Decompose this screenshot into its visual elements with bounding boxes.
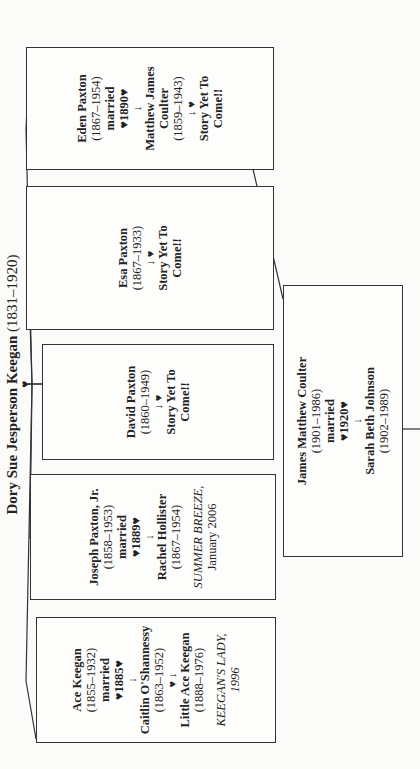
marriage-year: ♥1920♥ [337, 401, 351, 441]
root-name: Dory Sue Jesperson Keegan [4, 336, 20, 515]
root-dates: (1831–1920) [4, 255, 20, 333]
married-label: married [323, 399, 337, 443]
story-status: Story Yet To Come!! [164, 362, 192, 442]
book-title: KEEGAN'S LADY, [214, 633, 228, 726]
person-name: Esa Paxton [116, 228, 130, 288]
arrow-down-icon: ↓ [143, 534, 155, 540]
story-status: Story Yet To Come!! [156, 218, 184, 298]
heart-arrow-icon: ♥ ↓ [166, 673, 178, 688]
spouse-dates: (1902–1989) [377, 389, 391, 454]
person-box-joseph-paxton: Joseph Paxton, Jr. (1858–1953) married ♥… [30, 474, 276, 600]
person-box-ace-keegan: Ace Keegan (1855–1932) married ♥1885♥ ↓ … [36, 617, 276, 743]
child-dates: (1888–1976) [192, 648, 206, 713]
heart-arrow-icon: ↓ ♥ [185, 101, 197, 116]
married-label: married [115, 515, 129, 559]
family-tree-page: Dory Sue Jesperson Keegan (1831–1920) ♥ … [0, 0, 420, 769]
book-date: 1996 [228, 668, 242, 693]
person-name: Joseph Paxton, Jr. [87, 488, 101, 585]
person-box-esa-paxton: Esa Paxton (1867–1933) ↓ ♥ Story Yet To … [26, 186, 274, 330]
spouse-name: Matthew James Coulter [143, 59, 171, 159]
spouse-name: Rachel Hollister [155, 494, 169, 580]
arrow-down-icon: ↓ [131, 106, 143, 112]
person-dates: (1855–1932) [84, 648, 98, 713]
book-title: SUMMER BREEZE, [191, 486, 205, 589]
spouse-name: Sarah Beth Johnson [363, 367, 377, 475]
spouse-name: Caitlin O'Shannessy [138, 626, 152, 735]
person-dates: (1867–1933) [130, 226, 144, 291]
person-box-eden-paxton: Eden Paxton (1867–1954) married ♥1890♥ ↓… [26, 47, 274, 170]
person-name: Ace Keegan [70, 648, 84, 712]
person-dates: (1860–1949) [138, 370, 152, 435]
married-label: married [103, 87, 117, 131]
heart-arrow-icon: ↓ ♥ [144, 251, 156, 266]
person-name: Eden Paxton [75, 74, 89, 142]
spouse-dates: (1867–1954) [169, 505, 183, 570]
person-box-james-matthew-coulter: James Matthew Coulter (1901–1986) marrie… [283, 285, 403, 557]
marriage-year: ♥1885♥ [112, 660, 126, 700]
married-label: married [98, 658, 112, 702]
story-status: Story Yet To Come!! [197, 69, 225, 149]
arrow-down-icon: ↓ [351, 418, 363, 424]
marriage-year: ♥1889♥ [129, 517, 143, 557]
arrow-down-icon: ↓ [126, 677, 138, 683]
spouse-dates: (1859–1943) [171, 76, 185, 141]
marriage-year: ♥1890♥ [117, 89, 131, 129]
spouse-dates: (1863–1952) [152, 648, 166, 713]
person-name: David Paxton [124, 366, 138, 439]
child-name: Little Ace Keegan [178, 632, 192, 727]
person-name: James Matthew Coulter [295, 357, 309, 485]
book-date: January 2006 [205, 504, 219, 571]
person-box-david-paxton: David Paxton (1860–1949) ↓ ♥ Story Yet T… [42, 344, 274, 460]
person-dates: (1858–1953) [101, 505, 115, 570]
heart-arrow-icon: ↓ ♥ [152, 395, 164, 410]
person-dates: (1867–1954) [89, 76, 103, 141]
person-dates: (1901–1986) [309, 389, 323, 454]
